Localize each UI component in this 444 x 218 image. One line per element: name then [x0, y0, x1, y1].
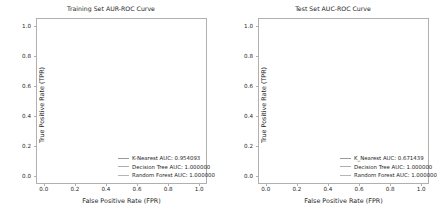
- legend-label: Random Forest AUC: 1.000000: [354, 171, 437, 180]
- x-tick-label: 0.2: [292, 186, 301, 192]
- chart-title-training: Training Set AUR-ROC Curve: [0, 5, 222, 12]
- legend-line-swatch: [340, 175, 351, 176]
- x-tick-label: 0.6: [355, 186, 364, 192]
- y-tick-label: 0.8: [229, 53, 253, 59]
- x-tick-label: 0.6: [133, 186, 142, 192]
- legend-label: Decision Tree AUC: 1.000000: [354, 163, 432, 172]
- x-axis-label-test: False Positive Rate (FPR): [258, 197, 429, 205]
- y-tick-label: 0.4: [7, 113, 31, 119]
- legend-line-swatch: [340, 158, 351, 159]
- legend-item[interactable]: K-Nearest AUC: 0.954093: [118, 154, 203, 163]
- y-tick-mark: [34, 146, 36, 147]
- x-axis-label-training: False Positive Rate (FPR): [36, 197, 207, 205]
- x-tick-label: 1.0: [417, 186, 426, 192]
- y-tick-label: 0.0: [7, 173, 31, 179]
- chart-title-test: Test Set AUC-ROC Curve: [222, 5, 444, 12]
- y-tick-label: 1.0: [7, 23, 31, 29]
- x-tick-label: 0.4: [324, 186, 333, 192]
- legend-line-swatch: [118, 158, 129, 159]
- y-tick-label: 0.6: [229, 83, 253, 89]
- legend-label: Random Forest AUC: 1.000000: [132, 171, 215, 180]
- legend-item[interactable]: Random Forest AUC: 1.000000: [118, 171, 203, 180]
- legend-line-swatch: [118, 175, 129, 176]
- x-tick-label: 0.8: [164, 186, 173, 192]
- y-tick-mark: [34, 176, 36, 177]
- legend-item[interactable]: K_Nearest AUC: 0.671439: [340, 154, 425, 163]
- test-set-panel: Test Set AUC-ROC Curve 0.00.20.40.60.81.…: [222, 0, 444, 218]
- y-tick-label: 0.2: [229, 143, 253, 149]
- legend-label: K-Nearest AUC: 0.954093: [132, 154, 200, 163]
- x-tick-label: 1.0: [195, 186, 204, 192]
- y-tick-label: 0.0: [229, 173, 253, 179]
- y-tick-mark: [256, 176, 258, 177]
- y-tick-label: 0.4: [229, 113, 253, 119]
- y-axis-label-test: True Positive Rate (TPR): [260, 22, 268, 188]
- y-tick-mark: [34, 26, 36, 27]
- legend-training: K-Nearest AUC: 0.954093Decision Tree AUC…: [117, 152, 205, 182]
- y-tick-mark: [34, 56, 36, 57]
- y-tick-label: 1.0: [229, 23, 253, 29]
- y-tick-mark: [256, 146, 258, 147]
- y-axis-label-training: True Positive Rate (TPR): [38, 22, 46, 188]
- y-tick-mark: [256, 86, 258, 87]
- roc-figure: Training Set AUR-ROC Curve 0.00.20.40.60…: [0, 0, 444, 218]
- training-set-panel: Training Set AUR-ROC Curve 0.00.20.40.60…: [0, 0, 222, 218]
- y-tick-label: 0.6: [7, 83, 31, 89]
- legend-label: K_Nearest AUC: 0.671439: [354, 154, 424, 163]
- y-tick-label: 0.2: [7, 143, 31, 149]
- y-tick-label: 0.8: [7, 53, 31, 59]
- legend-line-swatch: [340, 166, 351, 167]
- x-tick-label: 0.4: [102, 186, 111, 192]
- x-tick-label: 0.2: [70, 186, 79, 192]
- y-tick-mark: [256, 56, 258, 57]
- y-tick-mark: [256, 26, 258, 27]
- y-tick-mark: [34, 86, 36, 87]
- legend-item[interactable]: Decision Tree AUC: 1.000000: [118, 163, 203, 172]
- x-tick-label: 0.8: [386, 186, 395, 192]
- y-tick-mark: [34, 116, 36, 117]
- legend-line-swatch: [118, 166, 129, 167]
- legend-label: Decision Tree AUC: 1.000000: [132, 163, 210, 172]
- y-tick-mark: [256, 116, 258, 117]
- legend-item[interactable]: Decision Tree AUC: 1.000000: [340, 163, 425, 172]
- legend-item[interactable]: Random Forest AUC: 1.000000: [340, 171, 425, 180]
- legend-test: K_Nearest AUC: 0.671439Decision Tree AUC…: [339, 152, 427, 182]
